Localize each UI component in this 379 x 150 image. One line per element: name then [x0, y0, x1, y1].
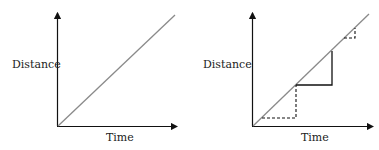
right-distance-time-line — [253, 14, 369, 126]
right-x-label: Time — [301, 131, 329, 144]
right-graph: Distance Time — [203, 13, 373, 144]
left-y-label: Distance — [12, 58, 61, 71]
left-graph: Distance Time — [12, 13, 177, 144]
right-y-label: Distance — [203, 58, 252, 71]
left-distance-time-line — [58, 15, 175, 126]
diagram-canvas: Distance Time Distance Time — [0, 0, 379, 150]
left-x-label: Time — [106, 131, 134, 144]
